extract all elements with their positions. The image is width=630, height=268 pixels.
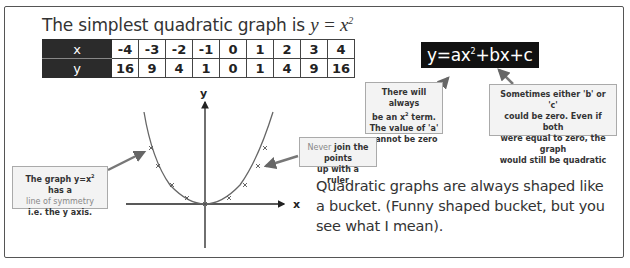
note-ruler: Never join the points up with a ruler	[299, 137, 377, 167]
note-highlight: Never	[307, 143, 331, 152]
note-text: join the points	[324, 143, 369, 163]
note-line: Never join the points	[305, 142, 371, 164]
note-text: be an x	[372, 113, 405, 122]
note-line: i.e. the y axis.	[18, 207, 102, 218]
note-line: The value of 'a'	[369, 123, 439, 134]
note-line: would still be quadratic	[495, 155, 611, 166]
formula-part2: +bx+c	[475, 45, 532, 65]
note-power: 2	[91, 173, 94, 179]
note-line: be an x2 term.	[369, 109, 439, 123]
note-line: were equal to zero, the graph	[495, 133, 611, 155]
bc-term-arrow	[499, 70, 513, 84]
note-line: could be zero. Even if both	[495, 111, 611, 133]
note-text: The graph y=x	[25, 175, 91, 184]
note-highlight: line of symmetry	[18, 196, 102, 207]
bucket-explanation: Quadratic graphs are always shaped like …	[316, 176, 616, 236]
note-text: term.	[409, 113, 436, 122]
note-line: cannot be zero	[369, 134, 439, 145]
parabola-curve	[144, 112, 273, 204]
note-line: The graph y=x2 has a	[18, 171, 102, 196]
note-b-c-term: Sometimes either 'b' or 'c' could be zer…	[489, 84, 617, 136]
note-line: Sometimes either 'b' or 'c'	[495, 89, 611, 111]
general-quadratic-formula: y=ax2+bx+c	[421, 42, 539, 68]
note-symmetry: The graph y=x2 has a line of symmetry i.…	[12, 166, 108, 209]
plotted-points	[149, 146, 267, 206]
symmetry-arrow	[108, 152, 144, 170]
formula-part1: y=ax	[427, 45, 471, 65]
note-text: has a	[48, 186, 72, 195]
ruler-arrow	[266, 156, 298, 166]
x-axis-label: x	[293, 198, 300, 211]
note-line: There will always	[369, 87, 439, 109]
note-a-term: There will always be an x2 term. The val…	[365, 82, 443, 134]
y-axis-label: y	[200, 87, 207, 100]
